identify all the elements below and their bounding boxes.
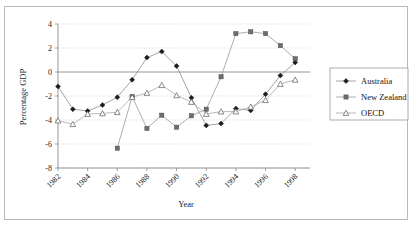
data-point-australia xyxy=(144,55,149,60)
data-point-australia xyxy=(100,103,105,108)
data-point-oecd xyxy=(159,82,165,87)
data-point-new-zealand xyxy=(219,75,223,79)
series-line-australia xyxy=(58,52,295,126)
y-tick-group: 420-2-4-6-8 xyxy=(45,20,58,173)
legend-marker-new-zealand xyxy=(344,95,348,99)
x-tick-label: 1982 xyxy=(45,172,63,190)
x-tick-label: 1990 xyxy=(163,172,181,190)
data-point-oecd xyxy=(174,93,180,98)
y-tick-label: -2 xyxy=(45,92,52,101)
series-lines-group xyxy=(58,32,295,148)
data-point-australia xyxy=(204,123,209,128)
x-tick-group: 198219841986198819901992199419961998 xyxy=(45,168,300,190)
data-point-new-zealand xyxy=(278,44,282,48)
y-tick-label: -6 xyxy=(45,140,52,149)
data-point-new-zealand xyxy=(174,125,178,129)
y-axis-title: Percentage GDP xyxy=(18,69,28,126)
legend-label-new-zealand: New Zealand xyxy=(361,92,407,102)
data-point-australia xyxy=(56,84,61,89)
x-tick-label: 1986 xyxy=(104,172,122,190)
data-point-new-zealand xyxy=(234,32,238,36)
data-point-new-zealand xyxy=(189,114,193,118)
data-point-australia xyxy=(70,107,75,112)
y-tick-label: 0 xyxy=(48,68,52,77)
legend: AustraliaNew ZealandOECD xyxy=(330,68,408,120)
data-point-oecd xyxy=(248,104,254,109)
gdp-line-chart: 420-2-4-6-8 1982198419861988199019921994… xyxy=(0,0,417,231)
y-tick-label: -8 xyxy=(45,164,52,173)
x-tick-label: 1992 xyxy=(193,172,211,190)
y-tick-label: 4 xyxy=(48,20,52,29)
data-point-new-zealand xyxy=(115,146,119,150)
x-tick-label: 1988 xyxy=(134,172,152,190)
data-point-oecd xyxy=(292,77,298,82)
legend-label-australia: Australia xyxy=(361,76,392,86)
data-point-new-zealand xyxy=(145,126,149,130)
legend-label-oecd: OECD xyxy=(361,108,384,118)
x-tick-label: 1998 xyxy=(282,172,300,190)
data-point-oecd xyxy=(144,90,150,95)
chart-container: 420-2-4-6-8 1982198419861988199019921994… xyxy=(0,0,417,231)
x-tick-label: 1984 xyxy=(74,172,92,190)
series-line-oecd xyxy=(58,80,295,124)
data-point-new-zealand xyxy=(249,30,253,34)
y-tick-label: 2 xyxy=(48,44,52,53)
x-tick-label: 1996 xyxy=(252,172,270,190)
y-tick-label: -4 xyxy=(45,116,52,125)
data-point-new-zealand xyxy=(293,57,297,61)
data-point-new-zealand xyxy=(160,113,164,117)
x-axis-title: Year xyxy=(178,199,194,209)
data-point-new-zealand xyxy=(263,32,267,36)
x-tick-label: 1994 xyxy=(223,172,241,190)
